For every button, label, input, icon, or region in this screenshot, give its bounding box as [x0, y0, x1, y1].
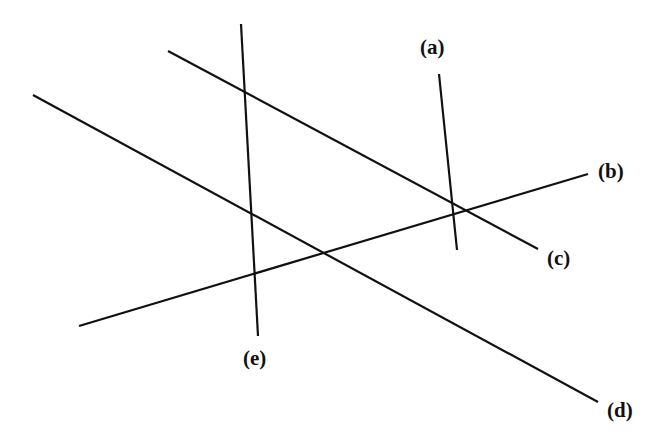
label-d: (d) — [607, 398, 633, 422]
intersecting-lines-diagram: (a) (b) (c) (d) (e) — [0, 0, 663, 447]
label-b: (b) — [598, 159, 624, 183]
line-a — [439, 74, 457, 250]
label-a: (a) — [420, 35, 445, 59]
line-d — [33, 95, 598, 402]
line-b — [79, 174, 588, 326]
label-c: (c) — [547, 246, 570, 270]
line-e — [241, 24, 258, 336]
line-c — [168, 51, 538, 249]
label-e: (e) — [243, 346, 266, 370]
